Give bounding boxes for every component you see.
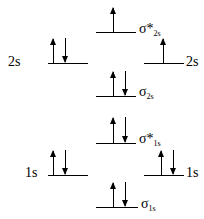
ao-2s-left-level (48, 63, 88, 64)
mo-sigma-star-2s-label: σ*2s (139, 22, 161, 41)
electron-down-arrow-icon (65, 38, 66, 62)
electron-up-arrow-icon (53, 151, 54, 175)
mo-sigma-star-2s-level (96, 32, 136, 33)
electron-up-arrow-icon (161, 151, 162, 175)
electron-up-arrow-icon (113, 118, 114, 143)
electron-up-arrow-icon (163, 39, 164, 63)
electron-up-arrow-icon (113, 72, 114, 96)
electron-up-arrow-icon (53, 39, 54, 63)
mo-sigma-star-1s-level (96, 143, 136, 144)
electron-up-arrow-icon (113, 8, 114, 32)
mo-sigma-1s-level (96, 207, 138, 208)
electron-down-arrow-icon (125, 117, 126, 142)
mo-sigma-1s-label: σ1s (141, 197, 156, 216)
mo-sigma-star-1s-label: σ*1s (139, 132, 161, 151)
ao-1s-right-label: 1s (186, 166, 198, 180)
electron-down-arrow-icon (65, 150, 66, 174)
electron-down-arrow-icon (125, 182, 126, 206)
ao-2s-right-label: 2s (186, 55, 198, 69)
mo-sigma-2s-level (96, 96, 136, 97)
electron-up-arrow-icon (113, 183, 114, 207)
ao-1s-right-level (144, 175, 184, 176)
electron-down-arrow-icon (125, 71, 126, 95)
ao-1s-left-label: 1s (25, 166, 37, 180)
mo-sigma-2s-label: σ2s (139, 85, 154, 104)
ao-2s-right-level (144, 63, 184, 64)
electron-down-arrow-icon (173, 150, 174, 174)
ao-1s-left-level (48, 175, 88, 176)
ao-2s-left-label: 2s (8, 55, 20, 69)
